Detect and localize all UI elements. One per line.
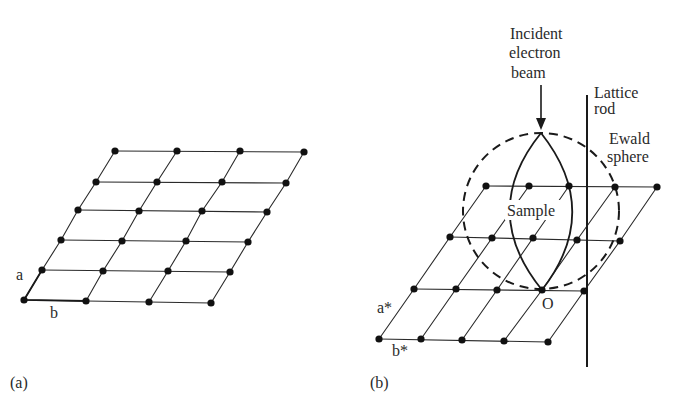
lattice-point xyxy=(135,207,142,214)
grid-row-line xyxy=(78,210,267,212)
sphere-label-line2: sphere xyxy=(607,148,649,166)
lattice-point xyxy=(57,236,64,243)
lattice-point xyxy=(482,182,489,189)
grid-column-line xyxy=(211,152,304,303)
incident-beam-arrow-icon xyxy=(536,85,546,130)
grid-row-line xyxy=(96,182,286,183)
lattice-point xyxy=(164,267,171,274)
lattice-point xyxy=(544,338,551,345)
unit-vectors xyxy=(24,270,86,301)
lattice-point xyxy=(417,335,424,342)
lattice-point xyxy=(263,208,270,215)
panel-b-caption: (b) xyxy=(370,374,389,392)
beam-label-line2: electron xyxy=(509,44,561,61)
lattice-point xyxy=(198,207,205,214)
lattice-point xyxy=(92,178,99,185)
grid-column-line xyxy=(379,186,486,339)
lattice-point xyxy=(653,183,660,190)
panel-a-caption: (a) xyxy=(10,374,28,392)
diagram-canvas: a b (a) Incident electron beam Lattice r… xyxy=(0,0,686,412)
grid-row-line xyxy=(42,270,230,272)
rod-label-line2: rod xyxy=(594,100,615,117)
sample-label: Sample xyxy=(507,202,555,220)
lattice-point xyxy=(573,236,580,243)
lattice-point xyxy=(616,237,623,244)
reciprocal-vector-b-label: b* xyxy=(392,342,408,359)
lattice-point xyxy=(565,182,572,189)
reciprocal-vector-a-label: a* xyxy=(377,299,392,316)
lattice-point xyxy=(153,178,160,185)
lattice-point xyxy=(282,179,289,186)
lattice-point xyxy=(500,337,507,344)
lattice-point xyxy=(538,286,545,293)
lattice-point xyxy=(173,147,180,154)
beam-label-line3: beam xyxy=(511,64,546,81)
lattice-vector-a-label: a xyxy=(16,266,23,283)
lattice-point xyxy=(38,266,45,273)
lattice-point xyxy=(82,297,89,304)
lattice-point xyxy=(300,148,307,155)
lattice-point xyxy=(529,234,536,241)
lattice-vector-b-label: b xyxy=(50,304,58,321)
reciprocal-lattice-ewald: Incident electron beam Lattice rod Ewald… xyxy=(370,25,661,392)
lattice-point xyxy=(99,267,106,274)
lattice-point xyxy=(236,147,243,154)
lattice-point xyxy=(488,234,495,241)
lattice-point xyxy=(111,147,118,154)
grid-row-line xyxy=(115,151,304,152)
lattice-point xyxy=(118,237,125,244)
lattice-point xyxy=(375,335,382,342)
grid-row-line xyxy=(61,240,248,242)
lattice-point xyxy=(410,285,417,292)
lattice-point xyxy=(493,286,500,293)
lattice-point xyxy=(20,296,27,303)
rod-label-line1: Lattice xyxy=(594,84,638,101)
lattice-point xyxy=(182,237,189,244)
lattice-point xyxy=(218,178,225,185)
beam-label-line1: Incident xyxy=(510,25,563,42)
lattice-point xyxy=(145,298,152,305)
lattice-point xyxy=(446,233,453,240)
lattice-point xyxy=(226,268,233,275)
lattice-grid-lines xyxy=(24,151,304,303)
lattice-point xyxy=(74,206,81,213)
lattice-point xyxy=(525,182,532,189)
lattice-point xyxy=(458,336,465,343)
lattice-point xyxy=(207,299,214,306)
lattice-point xyxy=(452,285,459,292)
lattice-point xyxy=(244,238,251,245)
origin-label: O xyxy=(542,295,554,312)
lattice-point xyxy=(580,287,587,294)
sphere-label-line1: Ewald xyxy=(609,130,650,147)
lattice-point xyxy=(611,183,618,190)
real-space-lattice: a b (a) xyxy=(10,147,308,392)
